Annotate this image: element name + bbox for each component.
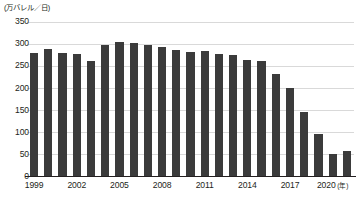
y-axis-tick-label: 350 [15,17,29,26]
bar [201,51,209,177]
y-axis-tick-label: 300 [15,39,29,48]
bar [172,50,180,176]
bar [186,52,194,176]
bar [229,55,237,177]
bar [73,54,81,176]
x-axis-unit-label: (年) [336,182,349,189]
x-axis-tick-label: 2020 (年) [317,181,349,191]
plot-area [27,22,354,177]
x-axis-line [25,176,356,178]
x-axis-tick-label: 1999 [25,181,44,190]
bar [314,134,322,177]
bar [286,88,294,176]
x-axis-tick-label: 2014 [238,181,257,190]
bar [130,43,138,176]
gridline [27,22,354,23]
bar [58,53,66,176]
x-axis-tick-label: 2005 [110,181,129,190]
bar [215,54,223,177]
y-axis-tick-label: 100 [15,128,29,137]
y-axis-tick-label: 250 [15,61,29,70]
x-axis-tick-label: 2017 [281,181,300,190]
bar [87,61,95,177]
bar [329,154,337,177]
bar [101,45,109,177]
gridline [27,44,354,45]
x-axis-tick-label: 2008 [153,181,172,190]
bar [243,60,251,176]
x-axis-tick-label: 2011 [196,181,214,190]
bar [272,74,280,176]
bar-chart: (万バレル／日) 350300250200150100500 199920022… [0,0,361,206]
bar [144,45,152,176]
x-axis-tick-label: 2002 [67,181,86,190]
y-axis-tick-label: 50 [20,150,29,159]
bar [30,53,38,176]
bar [257,61,265,176]
bar [158,47,166,177]
bar [115,42,123,177]
bar [44,49,52,177]
bar [343,151,351,176]
y-axis-tick-label: 150 [15,106,29,115]
y-axis-tick-label: 200 [15,84,29,93]
y-axis-unit-label: (万バレル／日) [4,3,50,12]
bar [300,112,308,177]
